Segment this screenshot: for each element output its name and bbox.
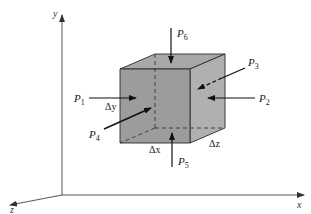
label-P6: P6 (176, 27, 188, 42)
label-P5: P5 (177, 155, 189, 170)
label-delta-y: Δy (105, 101, 116, 112)
label-P3: P3 (247, 56, 259, 71)
label-P2: P2 (258, 92, 270, 107)
element-diagram: y x z P6 P3 P2 P1 P4 P5 (0, 0, 311, 214)
label-P1: P1 (73, 92, 85, 107)
label-delta-z: Δz (209, 138, 220, 149)
label-P4: P4 (88, 128, 100, 143)
label-delta-x: Δx (149, 144, 160, 155)
x-axis-label: x (296, 199, 302, 210)
z-axis-label: z (9, 204, 14, 214)
z-axis (10, 195, 62, 205)
y-axis-label: y (52, 8, 58, 19)
